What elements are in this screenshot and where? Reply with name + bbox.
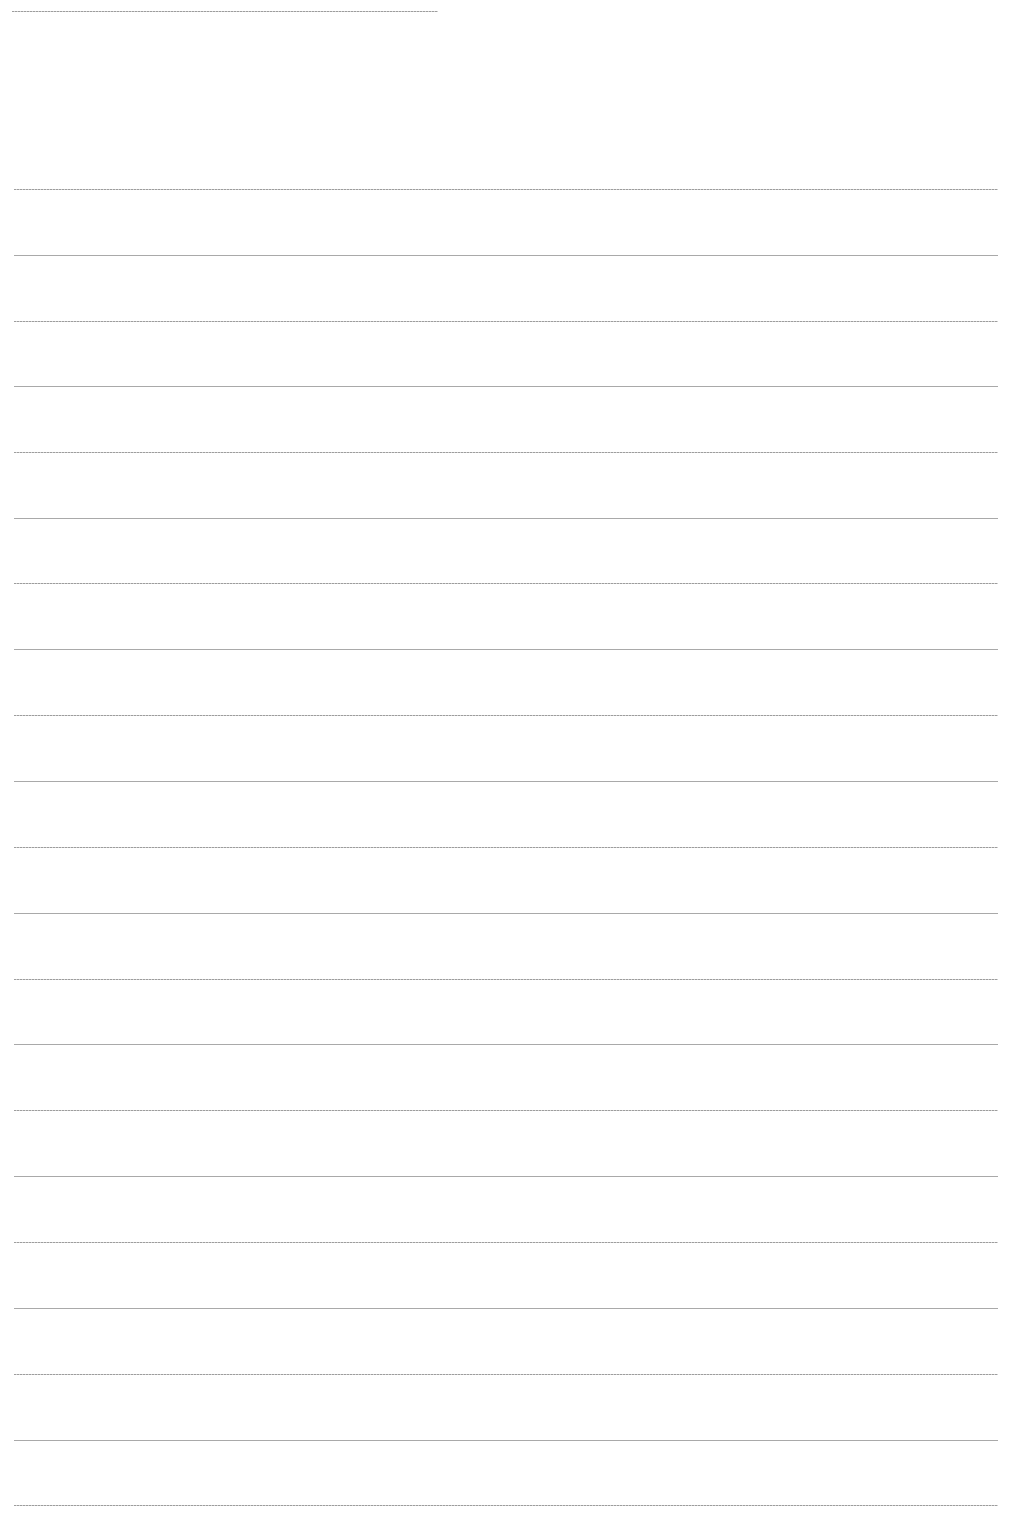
ruled-line xyxy=(14,715,998,716)
ruled-line xyxy=(14,452,998,453)
ruled-line xyxy=(14,583,998,584)
ruled-line xyxy=(14,1308,998,1309)
header-rule-line xyxy=(12,11,438,12)
ruled-line xyxy=(14,913,998,914)
ruled-line xyxy=(14,781,998,782)
ruled-line xyxy=(14,255,998,256)
ruled-line xyxy=(14,189,998,190)
ruled-line xyxy=(14,1505,998,1506)
ruled-line xyxy=(14,1176,998,1177)
ruled-line xyxy=(14,386,998,387)
ruled-line xyxy=(14,979,998,980)
ruled-line xyxy=(14,1110,998,1111)
ruled-line xyxy=(14,1242,998,1243)
ruled-line xyxy=(14,1044,998,1045)
ruled-page xyxy=(0,0,1022,1518)
ruled-line xyxy=(14,1440,998,1441)
ruled-line xyxy=(14,518,998,519)
ruled-line xyxy=(14,847,998,848)
ruled-line xyxy=(14,1374,998,1375)
ruled-line xyxy=(14,649,998,650)
ruled-line xyxy=(14,321,998,322)
